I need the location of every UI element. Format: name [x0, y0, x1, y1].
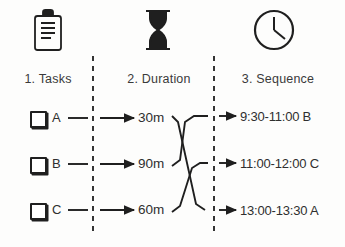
link-duration-3-to-sequence-2 — [172, 163, 208, 212]
clipboard-icon — [35, 10, 61, 50]
duration-label-2: 90m — [138, 156, 164, 171]
duration-label-1: 30m — [138, 110, 164, 125]
sequence-label-2: 11:00-12:00 C — [240, 156, 319, 171]
task-label-b: B — [52, 156, 61, 171]
task-checkbox-c[interactable] — [30, 203, 47, 220]
column-header-sequence: 3. Sequence — [218, 72, 338, 86]
task-checkbox-b[interactable] — [30, 157, 47, 174]
sequence-label-3: 13:00-13:30 A — [240, 203, 318, 218]
task-label-a: A — [52, 110, 61, 125]
clock-icon — [255, 11, 293, 49]
hourglass-icon — [146, 11, 170, 49]
task-label-c: C — [52, 202, 61, 217]
column-header-tasks: 1. Tasks — [0, 72, 108, 86]
task-checkbox-a[interactable] — [30, 111, 47, 128]
duration-label-3: 60m — [138, 202, 164, 217]
sequence-label-1: 9:30-11:00 B — [240, 109, 311, 124]
column-header-duration: 2. Duration — [99, 72, 219, 86]
diagram-canvas: 1. Tasks 2. Duration 3. Sequence A B C 3… — [0, 0, 345, 247]
